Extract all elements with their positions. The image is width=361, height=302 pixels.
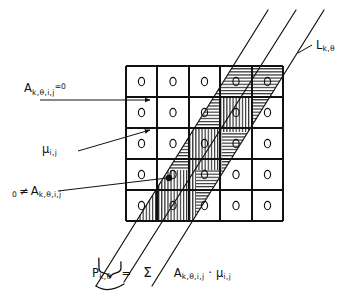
label-nonzero-base: A (31, 184, 39, 198)
projection-formula: Pk,θ=ΣAk,θ,i,j·μi,j (92, 266, 231, 281)
formula-a-base: A (152, 268, 182, 280)
label-l-subscript: k,θ (323, 44, 335, 53)
band-right-edge (152, 10, 324, 286)
formula-mu-subscript: i,j (224, 273, 232, 281)
formula-equals: = (112, 268, 134, 280)
sigma-icon: Σ (133, 266, 152, 280)
label-nonzero-subscript: k,θ,i,j (39, 190, 62, 199)
band-left-edge (96, 10, 268, 286)
label-ray-l-k-theta: Lk,θ (316, 40, 335, 53)
formula-a-subscript: k,θ,i,j (182, 273, 205, 281)
label-mu-base: μ (42, 142, 50, 156)
formula-p-base: P (92, 268, 99, 280)
leader-a-nonzero (58, 178, 167, 191)
not-equal-icon: ≠ (17, 184, 31, 198)
formula-mu-base: μ (216, 268, 224, 280)
label-mu-i-j: μi,j (42, 144, 57, 157)
label-a-k-theta-i-j-equals-zero: Ak,θ,i,j=0 (24, 83, 66, 96)
hatched-cells (126, 66, 283, 221)
label-zero-not-equal-a: 0≠Ak,θ,i,j (12, 186, 61, 199)
label-mu-subscript: i,j (50, 148, 58, 157)
label-a-zero-base: A (24, 81, 32, 95)
figure-canvas: Ak,θ,i,j=0 μi,j 0≠Ak,θ,i,j Lk,θ Pk,θ=ΣAk… (0, 0, 361, 302)
formula-multiply: · (204, 268, 216, 280)
ray-end-cap (96, 284, 124, 290)
label-a-zero-subscript: k,θ,i,j (32, 88, 55, 97)
formula-p-subscript: k,θ (99, 273, 111, 281)
label-l-base: L (316, 38, 323, 52)
label-a-zero-suffix: =0 (55, 82, 66, 91)
